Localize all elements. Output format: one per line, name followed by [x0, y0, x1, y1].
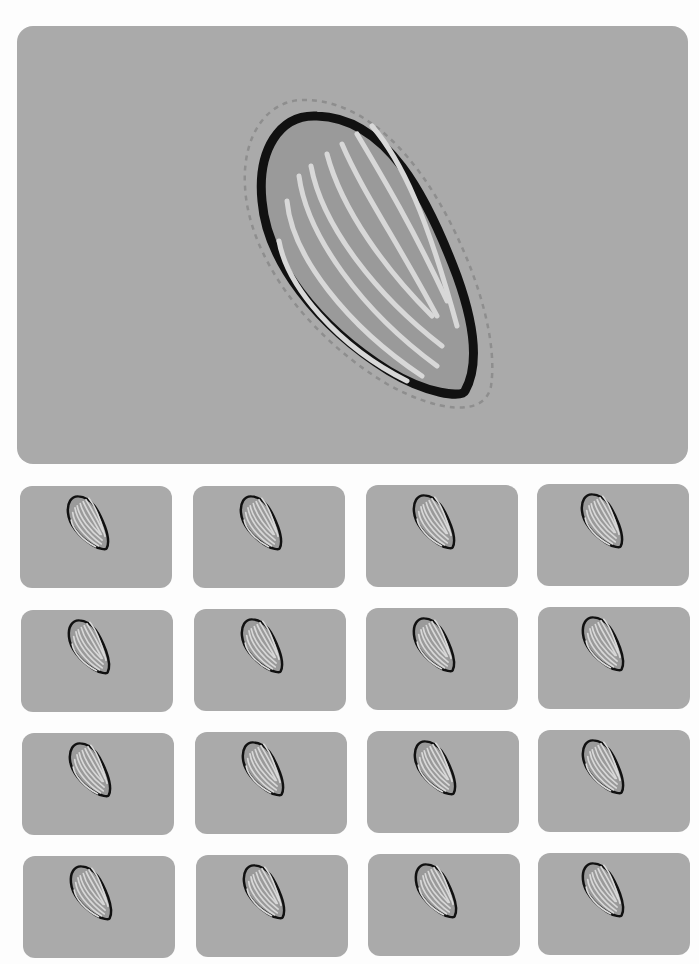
sticker-r4-c3[interactable]	[368, 854, 520, 956]
sunflower-seed-icon	[195, 732, 347, 834]
sticker-r2-c3[interactable]	[366, 608, 518, 710]
sunflower-seed-icon	[193, 486, 345, 588]
sunflower-seed-icon	[538, 853, 690, 955]
sticker-r3-c1[interactable]	[22, 733, 174, 835]
sticker-r1-c4[interactable]	[537, 484, 689, 586]
sticker-r2-c1[interactable]	[21, 610, 173, 712]
sunflower-seed-icon	[21, 610, 173, 712]
sticker-r2-c4[interactable]	[538, 607, 690, 709]
sticker-r3-c4[interactable]	[538, 730, 690, 832]
sunflower-seed-icon	[196, 855, 348, 957]
sticker-r4-c2[interactable]	[196, 855, 348, 957]
sunflower-seed-icon	[538, 607, 690, 709]
sunflower-seed-icon	[20, 486, 172, 588]
sticker-r4-c1[interactable]	[23, 856, 175, 958]
sunflower-seed-icon	[194, 609, 346, 711]
sunflower-seed-icon	[538, 730, 690, 832]
sticker-r2-c2[interactable]	[194, 609, 346, 711]
sunflower-seed-icon	[23, 856, 175, 958]
sunflower-seed-icon	[22, 733, 174, 835]
main-sticker-card[interactable]	[17, 26, 688, 464]
sunflower-seed-icon	[17, 26, 688, 464]
sticker-r3-c2[interactable]	[195, 732, 347, 834]
sticker-r3-c3[interactable]	[367, 731, 519, 833]
sunflower-seed-icon	[368, 854, 520, 956]
sticker-r4-c4[interactable]	[538, 853, 690, 955]
sticker-r1-c2[interactable]	[193, 486, 345, 588]
seed-body	[261, 116, 473, 394]
sunflower-seed-icon	[367, 731, 519, 833]
sticker-r1-c1[interactable]	[20, 486, 172, 588]
sunflower-seed-icon	[366, 608, 518, 710]
sunflower-seed-icon	[366, 485, 518, 587]
sunflower-seed-icon	[537, 484, 689, 586]
sticker-r1-c3[interactable]	[366, 485, 518, 587]
